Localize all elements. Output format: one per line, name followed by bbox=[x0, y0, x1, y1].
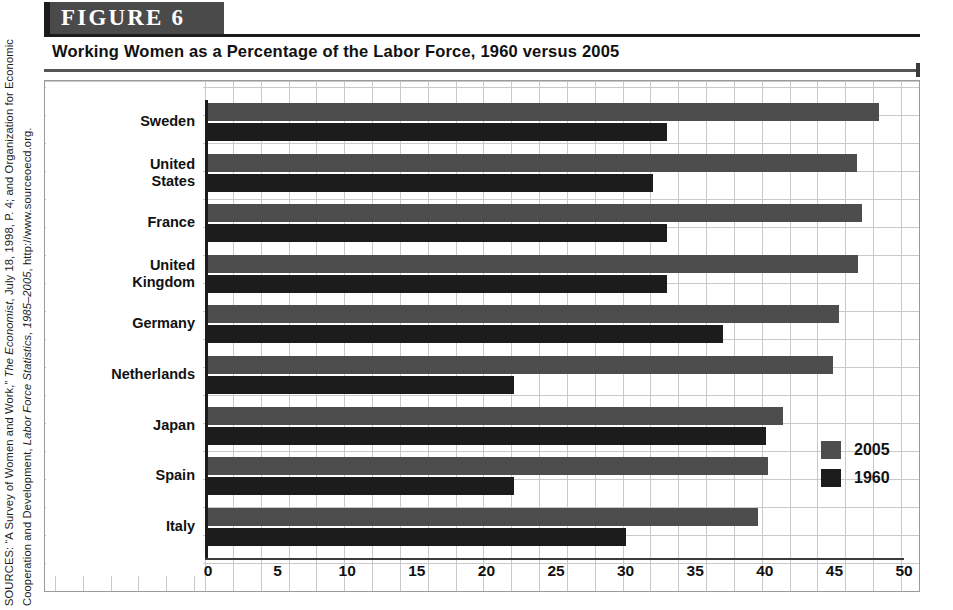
bar-row: Netherlands bbox=[45, 356, 919, 407]
bar-italy-2005 bbox=[208, 508, 758, 526]
source-suffix: , http://www.sourceoecd.org. bbox=[21, 127, 33, 271]
bar-row: Sweden bbox=[45, 103, 919, 154]
bar-germany-2005 bbox=[208, 305, 839, 323]
x-tick-35: 35 bbox=[675, 562, 715, 580]
legend-item-2005[interactable]: 2005 bbox=[821, 436, 890, 464]
bar-japan-1960 bbox=[208, 427, 766, 445]
bar-united-states-1960 bbox=[208, 174, 653, 192]
bar-sweden-1960 bbox=[208, 123, 667, 141]
bar-spain-2005 bbox=[208, 457, 768, 475]
bar-row: Germany bbox=[45, 305, 919, 356]
bar-france-1960 bbox=[208, 224, 667, 242]
title-rule-end-cap bbox=[916, 63, 920, 77]
chart-plot-area: SwedenUnited StatesFranceUnited KingdomG… bbox=[44, 80, 920, 592]
x-tick-40: 40 bbox=[745, 562, 785, 580]
x-tick-50: 50 bbox=[884, 562, 920, 580]
legend-swatch-2005-icon bbox=[821, 441, 841, 459]
figure-banner: FIGURE 6 bbox=[44, 2, 224, 34]
category-label-france: France bbox=[147, 214, 195, 231]
legend-swatch-1960-icon bbox=[821, 469, 841, 487]
bar-netherlands-2005 bbox=[208, 356, 833, 374]
x-tick-25: 25 bbox=[536, 562, 576, 580]
bar-japan-2005 bbox=[208, 407, 783, 425]
x-tick-20: 20 bbox=[466, 562, 506, 580]
source-note-rotated: SOURCES: “A Survey of Women and Work,” T… bbox=[0, 0, 40, 610]
bar-france-2005 bbox=[208, 204, 862, 222]
category-label-japan: Japan bbox=[153, 417, 195, 434]
legend-label-1960: 1960 bbox=[854, 469, 890, 487]
bar-row: Japan bbox=[45, 407, 919, 458]
bar-spain-1960 bbox=[208, 477, 514, 495]
x-axis-tick-labels: 05101520253035404550 bbox=[45, 562, 919, 590]
figure-number-label: FIGURE 6 bbox=[61, 5, 185, 31]
bar-row: Spain bbox=[45, 457, 919, 508]
source-prefix: SOURCES: “A Survey of Women and Work,” bbox=[3, 377, 15, 606]
bar-row: Italy bbox=[45, 508, 919, 559]
category-label-italy: Italy bbox=[166, 518, 195, 535]
bar-rows-container: SwedenUnited StatesFranceUnited KingdomG… bbox=[45, 81, 919, 591]
x-tick-45: 45 bbox=[814, 562, 854, 580]
bar-row: United States bbox=[45, 154, 919, 205]
bar-united-kingdom-1960 bbox=[208, 275, 667, 293]
category-label-united-states: United States bbox=[150, 156, 195, 190]
category-label-united-kingdom: United Kingdom bbox=[132, 257, 195, 291]
source-note-text: SOURCES: “A Survey of Women and Work,” T… bbox=[0, 6, 36, 610]
x-tick-30: 30 bbox=[606, 562, 646, 580]
category-label-germany: Germany bbox=[132, 315, 195, 332]
x-tick-5: 5 bbox=[258, 562, 298, 580]
chart-legend: 2005 1960 bbox=[821, 436, 890, 492]
x-tick-0: 0 bbox=[188, 562, 228, 580]
category-label-netherlands: Netherlands bbox=[111, 366, 195, 383]
x-tick-15: 15 bbox=[397, 562, 437, 580]
bar-united-states-2005 bbox=[208, 154, 857, 172]
bar-italy-1960 bbox=[208, 528, 626, 546]
legend-item-1960[interactable]: 1960 bbox=[821, 464, 890, 492]
figure-banner-edge bbox=[44, 2, 50, 34]
legend-label-2005: 2005 bbox=[854, 441, 890, 459]
bar-netherlands-1960 bbox=[208, 376, 514, 394]
bar-united-kingdom-2005 bbox=[208, 255, 858, 273]
source-note-rail: SOURCES: “A Survey of Women and Work,” T… bbox=[0, 0, 40, 610]
title-rule bbox=[44, 69, 920, 72]
source-italic-economist: The Economist bbox=[3, 302, 15, 378]
source-italic-labor-force-statistics: Labor Force Statistics, 1985–2005 bbox=[21, 271, 33, 445]
bar-row: France bbox=[45, 204, 919, 255]
banner-underline bbox=[44, 34, 920, 37]
x-tick-10: 10 bbox=[327, 562, 367, 580]
figure-title: Working Women as a Percentage of the Lab… bbox=[52, 42, 912, 61]
bar-germany-1960 bbox=[208, 325, 723, 343]
bar-sweden-2005 bbox=[208, 103, 879, 121]
bar-row: United Kingdom bbox=[45, 255, 919, 306]
category-label-spain: Spain bbox=[156, 467, 195, 484]
category-label-sweden: Sweden bbox=[140, 113, 195, 130]
